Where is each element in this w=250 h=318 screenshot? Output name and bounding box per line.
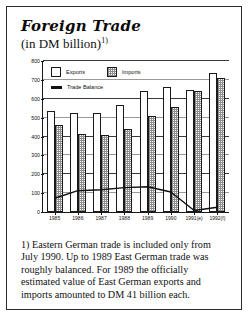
legend-label-trade-balance: Trade Balance (67, 84, 103, 90)
trade-balance-polyline (55, 187, 218, 211)
x-axis-tick-label: 1985 (49, 215, 60, 221)
exports-swatch-icon (51, 67, 61, 77)
x-axis-tick-label: 1987 (96, 215, 107, 221)
legend-label-imports: Imports (122, 69, 141, 75)
subtitle-text: (in DM billion) (21, 36, 101, 51)
page-title: Foreign Trade (21, 17, 141, 35)
y-axis-tick-label: 700 (31, 77, 40, 83)
legend-item-imports: Imports (107, 67, 141, 77)
x-axis-tick-label: 1991(e) (186, 215, 203, 221)
y-axis-tick-label: 100 (31, 190, 40, 196)
legend-row-bars: Exports Imports (51, 67, 163, 77)
chart-card: Foreign Trade (in DM billion)1) 01002003… (6, 6, 242, 310)
y-axis-tick-label: 500 (31, 115, 40, 121)
chart-legend: Exports Imports Trade Balance (51, 67, 163, 97)
footnote: 1) Eastern German trade is included only… (21, 239, 229, 301)
y-axis-tick-label: 200 (31, 171, 40, 177)
y-axis-tick-mark (41, 212, 44, 213)
y-axis-tick-label: 400 (31, 134, 40, 140)
foreign-trade-chart: 0100200300400500600700800 19851986198719… (17, 55, 233, 231)
y-axis-tick-label: 300 (31, 152, 40, 158)
y-axis-tick-label: 600 (31, 96, 40, 102)
x-axis-tick-label: 1990 (165, 215, 176, 221)
y-axis-tick-label: 800 (31, 58, 40, 64)
legend-item-trade-balance: Trade Balance (51, 84, 103, 90)
legend-row-line: Trade Balance (51, 84, 163, 90)
legend-item-exports: Exports (51, 67, 85, 77)
x-axis-tick-label: 1988 (119, 215, 130, 221)
x-axis-tick-label: 1992(f) (209, 215, 225, 221)
x-axis-tick-label: 1989 (142, 215, 153, 221)
legend-label-exports: Exports (66, 69, 85, 75)
y-axis-tick-label: 0 (37, 209, 40, 215)
imports-swatch-icon (107, 67, 117, 77)
trade-balance-swatch-icon (51, 86, 62, 89)
subtitle-footnote-marker: 1) (101, 36, 108, 45)
x-axis-tick-label: 1986 (72, 215, 83, 221)
chart-subtitle: (in DM billion)1) (21, 36, 108, 52)
